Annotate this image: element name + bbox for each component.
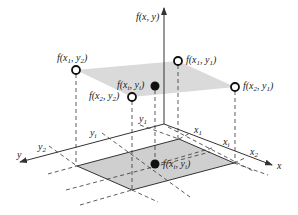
y-tick-2: y2 bbox=[37, 141, 46, 154]
z-axis-label: f(x, y) bbox=[136, 11, 160, 23]
label-f-x1-y2: f(x1, y2) bbox=[57, 52, 88, 65]
y-axis-label: y bbox=[16, 149, 22, 160]
label-f-x2-y1: f(x2, y1) bbox=[243, 80, 274, 93]
x-axis-label: x bbox=[276, 160, 282, 171]
label-f-x1-y1: f(x1, y1) bbox=[186, 54, 217, 67]
bilinear-interpolation-diagram: f(x, y) x y x1 xi x2 y1 yi y2 f(x1, y2) … bbox=[0, 0, 298, 215]
point-f-x2-y2 bbox=[128, 93, 136, 101]
y-tick-1: y1 bbox=[138, 113, 147, 126]
point-f-xi-yi-base bbox=[151, 160, 160, 169]
point-f-x1-y1 bbox=[174, 57, 182, 65]
label-f-x2-y2: f(x2, y2) bbox=[89, 90, 120, 103]
point-f-xi-yi-surface bbox=[151, 82, 160, 91]
y-tick-i: yi bbox=[89, 127, 96, 140]
point-f-x2-y1 bbox=[231, 83, 239, 91]
point-f-x1-y2 bbox=[72, 66, 80, 74]
